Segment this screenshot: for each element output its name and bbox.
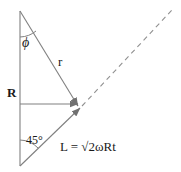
label-equation-L: L = √2ωRt (60, 140, 116, 153)
label-radius-R: R (7, 86, 16, 99)
diagonal-dashed-line (82, 10, 172, 106)
label-angle-phi: ϕ (22, 36, 29, 50)
vector-diagram-figure: R ϕ r 45° L = √2ωRt (0, 0, 181, 172)
label-vector-r: r (58, 55, 62, 68)
vector-r-line (20, 11, 78, 106)
label-angle-45: 45° (26, 134, 43, 146)
